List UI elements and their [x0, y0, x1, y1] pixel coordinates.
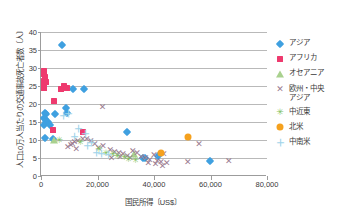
data-point: ✕ — [91, 140, 99, 149]
legend-item[interactable]: ＋中南米 — [274, 137, 348, 148]
data-point: ✳ — [77, 137, 85, 146]
data-point: ✕ — [123, 152, 131, 161]
data-point: ✕ — [79, 134, 87, 143]
x-tick-label: 80,000 — [256, 180, 279, 189]
square-marker-icon — [274, 53, 286, 64]
y-tick-label: 30 — [29, 64, 37, 73]
data-point: ＋ — [74, 125, 83, 134]
data-point: ✕ — [111, 147, 119, 156]
data-point — [58, 41, 66, 49]
y-tick-mark — [38, 158, 41, 159]
y-tick-label: 10 — [29, 136, 37, 145]
x-marker-icon: ✕ — [274, 84, 286, 95]
legend-item[interactable]: ✳中近東 — [274, 107, 348, 118]
triangle-marker-icon — [274, 68, 286, 79]
star-marker-icon: ✳ — [274, 107, 286, 118]
y-tick-mark — [38, 50, 41, 51]
data-point: ✳ — [132, 156, 140, 165]
y-tick-mark — [38, 122, 41, 123]
data-point: ✕ — [159, 161, 167, 170]
legend-item-label: 中近東 — [289, 107, 310, 117]
data-point: ✕ — [129, 146, 137, 155]
scatter-chart: 人口10万人当たりの交通事故死亡者数〔人〕 0510152025303540 0… — [0, 0, 348, 216]
data-point: ✕ — [67, 141, 75, 150]
gridline — [41, 86, 267, 87]
gridline — [41, 104, 267, 105]
x-axis-title: 国民所得〔US$〕 — [40, 196, 266, 207]
data-point: ✳ — [113, 152, 121, 161]
data-point: ✕ — [157, 158, 165, 167]
data-point: ✕ — [146, 156, 154, 165]
data-point: ✳ — [95, 145, 103, 154]
data-point — [42, 74, 48, 80]
y-tick-mark — [38, 32, 41, 33]
data-point — [51, 110, 59, 118]
y-tick-label: 5 — [33, 154, 37, 163]
data-point — [43, 79, 49, 85]
chart-legend: アジアアフリカオセアニア✕欧州・中央 アジア✳中近東北米＋中南米 — [274, 38, 348, 152]
data-point: ✕ — [64, 143, 72, 152]
legend-item-label: アフリカ — [289, 53, 317, 63]
y-tick-label: 40 — [29, 28, 37, 37]
x-tick-label: 0 — [39, 180, 43, 189]
data-point: ＋ — [59, 111, 68, 120]
plus-marker-icon: ＋ — [274, 137, 286, 148]
data-point — [123, 127, 131, 135]
legend-item[interactable]: オセアニア — [274, 68, 348, 79]
data-point: ✕ — [87, 137, 95, 146]
data-point — [63, 109, 71, 117]
data-point: ✳ — [125, 155, 133, 164]
data-point: ✳ — [102, 149, 110, 158]
legend-item[interactable]: アジア — [274, 38, 348, 49]
gridline — [41, 68, 267, 69]
y-tick-label: 20 — [29, 100, 37, 109]
y-axis-title: 人口10万人当たりの交通事故死亡者数〔人〕 — [14, 13, 25, 183]
y-tick-label: 15 — [29, 118, 37, 127]
legend-item-label: 中南米 — [289, 137, 310, 147]
gridline — [41, 32, 267, 33]
gridline — [41, 140, 267, 141]
legend-item[interactable]: ✕欧州・中央 アジア — [274, 84, 348, 103]
y-tick-mark — [38, 104, 41, 105]
data-point: ✕ — [133, 148, 141, 157]
gridline — [41, 50, 267, 51]
x-tick-label: 20,000 — [86, 180, 109, 189]
data-point — [130, 151, 138, 158]
legend-item-label: 北米 — [289, 122, 303, 132]
data-point: ＋ — [81, 129, 90, 138]
y-tick-label: 25 — [29, 82, 37, 91]
data-point: ✳ — [109, 149, 117, 158]
data-point: ✕ — [106, 146, 114, 155]
data-point: ✕ — [115, 149, 123, 158]
data-point: ✕ — [95, 143, 103, 152]
diamond-marker-icon — [274, 38, 286, 49]
data-point: ✕ — [145, 159, 153, 168]
data-point: ✕ — [138, 152, 146, 161]
circle-marker-icon — [274, 122, 286, 133]
data-point — [50, 127, 56, 133]
data-point — [41, 109, 49, 117]
legend-item-label: 欧州・中央 アジア — [289, 84, 324, 103]
x-tick-label: 40,000 — [143, 180, 166, 189]
y-tick-label: 0 — [33, 172, 37, 181]
data-point — [42, 110, 50, 118]
x-tick-label: 60,000 — [199, 180, 222, 189]
y-tick-mark — [38, 86, 41, 87]
data-point — [40, 113, 48, 121]
data-point — [80, 129, 86, 135]
y-tick-mark — [38, 140, 41, 141]
data-point: ✳ — [121, 152, 129, 161]
gridline — [41, 158, 267, 159]
data-point — [41, 78, 47, 84]
legend-item-label: アジア — [289, 38, 310, 48]
data-point: ✕ — [73, 145, 81, 154]
data-point: ＋ — [83, 142, 92, 151]
legend-item[interactable]: 北米 — [274, 122, 348, 133]
data-point: ✕ — [71, 137, 79, 146]
data-point — [158, 149, 165, 156]
legend-item[interactable]: アフリカ — [274, 53, 348, 64]
y-tick-label: 35 — [29, 46, 37, 55]
plot-area: 0510152025303540 020,00040,00060,00080,0… — [40, 32, 266, 176]
gridline — [41, 122, 267, 123]
legend-item-label: オセアニア — [289, 68, 324, 78]
